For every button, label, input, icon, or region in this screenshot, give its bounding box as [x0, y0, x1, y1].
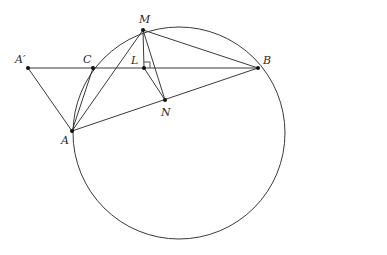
point-label-l: L: [131, 55, 138, 66]
point-b: [256, 66, 260, 70]
segment-a-c: [72, 68, 93, 131]
point-label-aprime: A′: [15, 54, 25, 65]
circumcircle: [73, 27, 285, 239]
segment-m-n: [143, 30, 165, 100]
geometry-figure: [0, 0, 387, 255]
point-aprime: [26, 66, 30, 70]
segment-aprime-a: [28, 68, 72, 131]
point-a: [70, 129, 74, 133]
point-label-a: A: [61, 135, 69, 146]
point-m: [141, 28, 145, 32]
segment-m-b: [143, 30, 258, 68]
segment-l-n: [144, 68, 165, 100]
point-label-c: C: [83, 54, 91, 65]
point-l: [142, 66, 146, 70]
point-label-m: M: [139, 14, 150, 25]
point-label-n: N: [161, 107, 171, 118]
point-label-b: B: [263, 55, 271, 66]
segment-a-m: [72, 30, 143, 131]
segment-m-l: [143, 30, 144, 68]
point-c: [91, 66, 95, 70]
segments: [28, 30, 258, 131]
circle: [73, 27, 285, 239]
point-n: [163, 98, 167, 102]
